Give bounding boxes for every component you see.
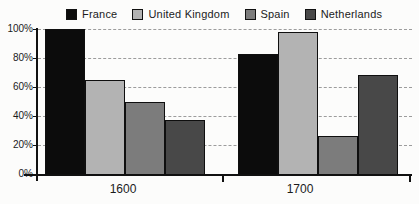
x-category-label-1600: 1600 bbox=[93, 183, 153, 195]
bar-spain-1700 bbox=[318, 136, 358, 175]
y-tick-label: 20% bbox=[0, 140, 33, 150]
bar-netherlands-1600 bbox=[165, 120, 205, 175]
bar-united-kingdom-1600 bbox=[85, 80, 125, 175]
y-tick-label: 100% bbox=[0, 24, 33, 34]
gridline-100% bbox=[38, 29, 412, 30]
bar-chart-figure: FranceUnited KingdomSpainNetherlands 0%2… bbox=[0, 0, 419, 204]
x-tick-mark bbox=[222, 176, 224, 182]
y-tick-label: 80% bbox=[0, 53, 33, 63]
bar-netherlands-1700 bbox=[358, 75, 398, 175]
bar-spain-1600 bbox=[125, 102, 165, 176]
y-tick-label: 60% bbox=[0, 82, 33, 92]
bar-france-1700 bbox=[238, 54, 278, 175]
y-tick-label: 40% bbox=[0, 111, 33, 121]
x-category-label-1700: 1700 bbox=[270, 183, 330, 195]
x-tick-mark bbox=[409, 176, 411, 182]
gridline-80% bbox=[38, 58, 412, 59]
plot-area: 0%20%40%60%80%100% 16001700 bbox=[0, 0, 419, 204]
y-axis-line bbox=[36, 28, 38, 181]
bar-france-1600 bbox=[45, 29, 85, 175]
bar-united-kingdom-1700 bbox=[278, 32, 318, 175]
